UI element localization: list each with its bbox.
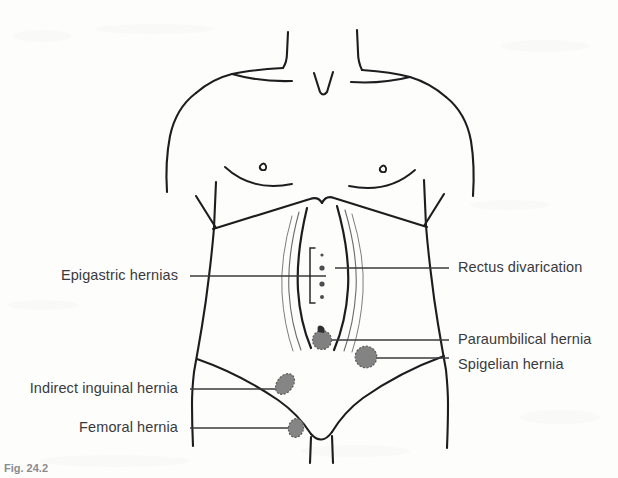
label-epigastric-hernias-text: Epigastric hernias xyxy=(61,267,178,283)
costal-margin xyxy=(213,197,427,229)
femoral-hernia-marker xyxy=(287,417,306,439)
label-paraumbilical-hernia: Paraumbilical hernia xyxy=(458,332,591,347)
right-trapezius xyxy=(362,70,446,97)
right-inguinal-ligament xyxy=(332,356,444,432)
left-shoulder-arm xyxy=(166,93,196,192)
left-nipple xyxy=(260,164,266,171)
epigastric-defect xyxy=(319,281,324,286)
hernia-markers xyxy=(272,326,377,439)
paraumbilical-hernia-marker xyxy=(313,326,332,350)
left-thigh-inner xyxy=(310,437,311,463)
label-femoral-hernia-text: Femoral hernia xyxy=(79,419,178,435)
right-shoulder-arm xyxy=(446,97,474,196)
rectus-left-inner xyxy=(298,208,311,348)
indirect-inguinal-hernia-marker xyxy=(272,370,299,398)
perineum-curve xyxy=(311,432,332,440)
left-arm-inner-stub xyxy=(196,196,216,228)
left-clavicle xyxy=(232,74,292,81)
suprasternal-notch xyxy=(314,72,333,95)
label-paraumbilical-hernia-text: Paraumbilical hernia xyxy=(458,331,591,347)
epigastric-defect xyxy=(320,253,323,256)
epigastric-defect xyxy=(320,295,324,299)
spigelian-hernia-marker xyxy=(355,346,377,368)
label-indirect-inguinal-hernia: Indirect inguinal hernia xyxy=(0,381,178,396)
label-rectus-divarication-text: Rectus divarication xyxy=(458,259,582,275)
label-spigelian-hernia: Spigelian hernia xyxy=(458,357,564,372)
rectus-left-outer-1 xyxy=(289,212,301,350)
neck-right-edge xyxy=(357,30,362,70)
rectus-right-outer-2 xyxy=(352,214,363,352)
hernia-diagram xyxy=(0,0,618,478)
inguinal-region xyxy=(197,356,444,463)
rectus-right-outer-1 xyxy=(344,210,356,351)
chest-detail xyxy=(225,164,415,189)
figure-page: Epigastric hernias Indirect inguinal her… xyxy=(0,0,618,478)
label-epigastric-hernias: Epigastric hernias xyxy=(0,268,178,283)
label-indirect-inguinal-hernia-text: Indirect inguinal hernia xyxy=(30,380,178,396)
rectus-right-inner xyxy=(334,206,348,350)
left-breast-curve xyxy=(225,167,292,186)
right-clavicle xyxy=(351,77,410,82)
label-rectus-divarication: Rectus divarication xyxy=(458,260,582,275)
right-thigh-inner xyxy=(332,436,333,463)
figure-caption-text: Fig. 24.2 xyxy=(4,462,48,474)
figure-caption: Fig. 24.2 xyxy=(4,462,48,478)
torso-outline xyxy=(166,30,473,448)
right-arm-inner-stub xyxy=(424,194,444,226)
label-femoral-hernia: Femoral hernia xyxy=(0,420,178,435)
epigastric-defect xyxy=(319,265,324,270)
neck-left-edge xyxy=(283,32,288,68)
right-nipple xyxy=(380,166,386,173)
rectus-left-outer-2 xyxy=(282,216,293,351)
label-spigelian-hernia-text: Spigelian hernia xyxy=(458,356,564,372)
